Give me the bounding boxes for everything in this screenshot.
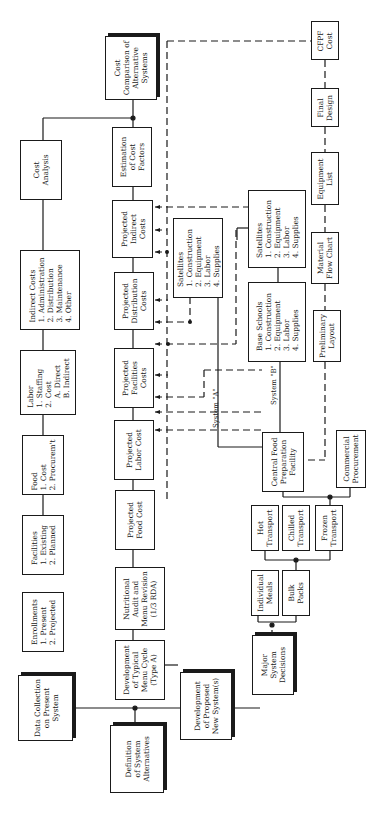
preliminary-layout-box: Preliminary Layout [313, 310, 341, 362]
chilled-transport-box: Chilled Transport [282, 505, 310, 551]
projected-facilities-text: Projected Facilities Costs [121, 360, 148, 396]
base-schools-text: Base Schools 1. Construction 2. Equipmen… [255, 293, 300, 351]
food-text: Food 1. Cost 2. Procurem't [30, 439, 57, 490]
definition-alternatives-box: Definition of System Alternatives [110, 725, 164, 793]
nutritional-audit-text: Nutritional Audit and Menu Revision (1/3… [122, 571, 158, 627]
flowchart-canvas: Cost Comparison of Alternative Systems C… [0, 0, 380, 817]
labor-box: Labor 1. Staffing 2. Cost A. Direct B. I… [20, 350, 76, 415]
base-schools-box: Base Schools 1. Construction 2. Equipmen… [248, 282, 306, 362]
major-decisions-text: Major System Decisions [260, 647, 287, 683]
indirect-costs-box: Indirect Costs 1. Administration 2. Dist… [20, 250, 80, 330]
cfpf-cost-text: CFPF Cost [316, 30, 334, 51]
bulk-packs-box: Bulk Packs [282, 570, 310, 616]
definition-alternatives-text: Definition of System Alternatives [124, 736, 151, 781]
facilities-text: Facilities 1. Existing 2. Planned [30, 525, 57, 565]
system-b-label: System "B" [270, 365, 278, 405]
projected-labor-text: Projected Labor Cost [125, 429, 143, 470]
central-food-text: Central Food Preparation Facility [270, 438, 297, 487]
labor-text: Labor 1. Staffing 2. Cost A. Direct B. I… [26, 358, 71, 407]
projected-distribution-box: Projected Distribution Costs [114, 272, 154, 330]
frozen-transport-box: Frozen Transport [315, 505, 343, 551]
enrollments-text: Enrollments 1. Present 2. Projected [30, 599, 57, 645]
material-flow-box: Material Flow Chart [311, 232, 339, 284]
data-collection-box: Data Collection on Present System [18, 675, 73, 741]
preliminary-layout-text: Preliminary Layout [318, 314, 336, 358]
satellites-b-box: Satellites 1. Construction 2. Equipment … [248, 190, 306, 268]
enrollments-box: Enrollments 1. Present 2. Projected [22, 592, 64, 652]
chilled-transport-text: Chilled Transport [287, 509, 305, 546]
frozen-transport-text: Frozen Transport [320, 509, 338, 546]
projected-food-text: Projected Food Cost [126, 501, 144, 539]
projected-facilities-box: Projected Facilities Costs [114, 348, 154, 408]
cost-analysis-box: Cost Analysis [20, 140, 62, 200]
hot-transport-text: Hot Transport [256, 509, 274, 546]
final-design-box: Final Design [311, 88, 339, 127]
material-flow-text: Material Flow Chart [316, 237, 334, 279]
nutritional-audit-box: Nutritional Audit and Menu Revision (1/3… [115, 567, 165, 630]
facilities-box: Facilities 1. Existing 2. Planned [22, 515, 64, 575]
estimation-cost-factors-box: Estimation of Cost Factors [112, 127, 152, 187]
satellites-a-text: Satellites 1. Construction 2. Equipment … [176, 229, 221, 287]
food-box: Food 1. Cost 2. Procurem't [22, 435, 64, 495]
equipment-list-text: Equipment List [316, 158, 334, 199]
satellites-a-box: Satellites 1. Construction 2. Equipment … [173, 218, 223, 298]
proposed-new-systems-text: Development of Proposed New System(s) [193, 678, 220, 734]
system-a-label: System "A" [212, 388, 220, 428]
equipment-list-box: Equipment List [311, 152, 339, 205]
hot-transport-box: Hot Transport [251, 505, 279, 551]
cost-comparison-text: Cost Comparison of Alternative Systems [113, 41, 149, 96]
bulk-packs-text: Bulk Packs [287, 582, 305, 603]
estimation-cost-factors-text: Estimation of Cost Factors [119, 137, 146, 177]
proposed-new-systems-box: Development of Proposed New System(s) [180, 672, 232, 740]
projected-indirect-text: Projected Indirect Costs [119, 211, 146, 247]
individual-meals-box: Individual Meals [251, 570, 279, 616]
projected-distribution-text: Projected Distribution Costs [121, 279, 148, 324]
typical-menu-text: Development of Typical Menu Cycle (Type … [122, 645, 158, 695]
major-decisions-box: Major System Decisions [252, 635, 294, 695]
central-food-box: Central Food Preparation Facility [262, 432, 304, 492]
individual-meals-text: Individual Meals [256, 574, 274, 612]
indirect-costs-text: Indirect Costs 1. Administration 2. Dist… [28, 257, 73, 322]
cost-analysis-text: Cost Analysis [32, 155, 50, 186]
commercial-procurement-box: Commercial Procurement [336, 430, 366, 488]
data-collection-text: Data Collection on Present System [32, 679, 59, 737]
projected-food-box: Projected Food Cost [115, 490, 155, 550]
cost-comparison-box: Cost Comparison of Alternative Systems [105, 36, 157, 100]
projected-labor-box: Projected Labor Cost [114, 420, 154, 480]
satellites-b-text: Satellites 1. Construction 2. Equipment … [255, 200, 300, 258]
final-design-text: Final Design [316, 95, 334, 121]
commercial-procurement-text: Commercial Procurement [342, 435, 360, 484]
typical-menu-box: Development of Typical Menu Cycle (Type … [115, 640, 165, 700]
projected-indirect-box: Projected Indirect Costs [112, 200, 153, 258]
cfpf-cost-box: CFPF Cost [311, 21, 339, 60]
